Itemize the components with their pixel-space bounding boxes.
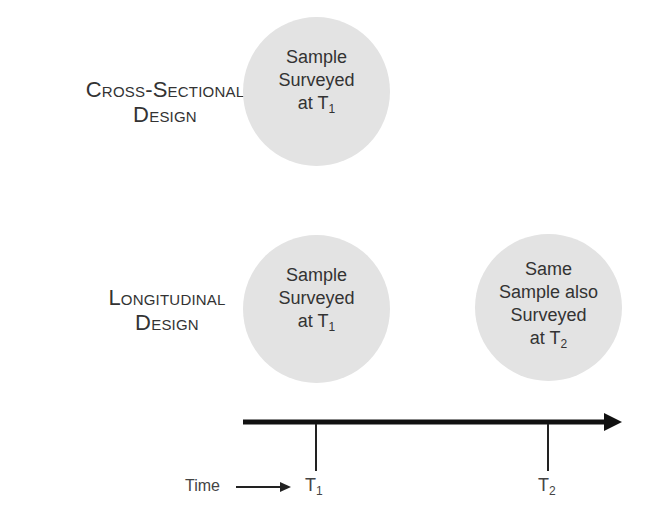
timeline-arrow xyxy=(243,413,622,431)
time-label: Time xyxy=(185,477,220,495)
timeline-graphics xyxy=(0,0,651,524)
tick-label-t2: T2 xyxy=(538,475,556,496)
time-pointer-arrow xyxy=(236,482,291,492)
arrow-right-icon xyxy=(280,482,291,492)
tick-label-t1: T1 xyxy=(305,475,323,496)
arrowhead-icon xyxy=(604,413,622,431)
